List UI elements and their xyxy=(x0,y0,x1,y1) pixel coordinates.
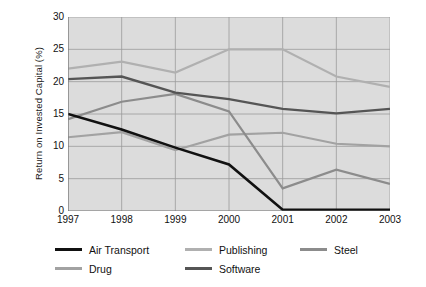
legend-item-drug[interactable]: Drug xyxy=(55,259,112,278)
legend-row: DrugSoftware xyxy=(55,259,415,278)
plot-svg xyxy=(68,17,390,211)
y-tick-label: 5 xyxy=(30,174,64,184)
y-tick-label: 20 xyxy=(30,77,64,87)
legend-swatch-icon xyxy=(55,248,82,251)
roic-line-chart: Return on Invested Capital (%) 051015202… xyxy=(0,0,426,287)
x-tick-label: 2001 xyxy=(260,214,306,225)
legend-swatch-icon xyxy=(185,267,212,270)
x-tick-label: 2002 xyxy=(313,214,359,225)
y-tick-label: 10 xyxy=(30,141,64,151)
x-tick-label: 2003 xyxy=(367,214,413,225)
y-tick-label: 30 xyxy=(30,12,64,22)
y-axis-tick-labels: 051015202530 xyxy=(26,17,64,211)
y-tick-label: 25 xyxy=(30,44,64,54)
x-tick-label: 2000 xyxy=(206,214,252,225)
legend-row: Air TransportPublishingSteel xyxy=(55,240,415,259)
legend-label: Software xyxy=(219,263,260,275)
legend-item-publishing[interactable]: Publishing xyxy=(185,240,267,259)
legend-item-air-transport[interactable]: Air Transport xyxy=(55,240,149,259)
x-tick-label: 1998 xyxy=(99,214,145,225)
legend-label: Publishing xyxy=(219,244,267,256)
legend-item-steel[interactable]: Steel xyxy=(300,240,358,259)
legend-swatch-icon xyxy=(185,248,212,251)
chart-legend: Air TransportPublishingSteelDrugSoftware xyxy=(55,240,415,278)
legend-swatch-icon xyxy=(300,248,327,251)
legend-label: Steel xyxy=(334,244,358,256)
legend-item-software[interactable]: Software xyxy=(185,259,260,278)
x-tick-label: 1997 xyxy=(45,214,91,225)
legend-label: Drug xyxy=(89,263,112,275)
y-tick-label: 15 xyxy=(30,109,64,119)
x-tick-label: 1999 xyxy=(152,214,198,225)
plot-area xyxy=(68,17,390,211)
x-axis-tick-labels: 1997199819992000200120022003 xyxy=(68,214,390,230)
legend-swatch-icon xyxy=(55,267,82,270)
legend-label: Air Transport xyxy=(89,244,149,256)
